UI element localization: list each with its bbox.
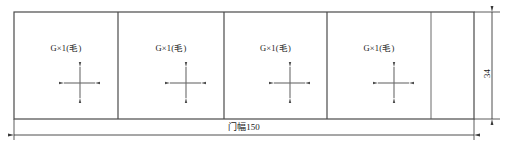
grain-direction-cross-icon-1 [64,67,95,98]
grain-direction-cross-icon-4 [378,67,409,98]
panel-label-1: G×1(毛) [14,41,118,53]
height-dimension-label: 34 [482,48,492,78]
grain-direction-cross-icon-2 [170,67,201,98]
width-dimension-label: 门幅150 [14,120,474,133]
grain-direction-cross-icon-3 [274,67,305,98]
technical-drawing-canvas: G×1(毛) G×1(毛) G×1(毛) G×1(毛) 门幅150 34 [0,0,509,146]
panel-label-4: G×1(毛) [327,41,431,53]
panel-label-3: G×1(毛) [224,41,327,53]
panel-frame-outline [14,12,474,119]
panel-dividers [118,12,431,119]
panel-label-2: G×1(毛) [118,41,224,53]
